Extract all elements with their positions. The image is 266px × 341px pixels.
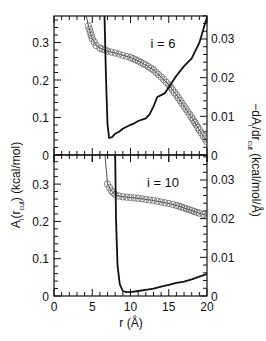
y-tick-label-left: 0: [42, 290, 49, 304]
plot-panels: 00.10.20.300.010.020.03i = 600.10.20.300…: [32, 11, 234, 314]
ylabel-right-mid: /dr: [249, 127, 263, 141]
left-y-axis-label: Ai(rcut) (kcal/mol): [9, 142, 25, 228]
x-tick-label: 15: [162, 300, 176, 314]
y-tick-label-right: 0: [211, 149, 218, 163]
x-tick-label: 0: [51, 300, 58, 314]
ylabel-left-sub2: cut: [18, 201, 25, 210]
panel-annotation: i = 10: [147, 175, 179, 190]
svg-text:Ai(rcut) (kcal/mol): Ai(rcut) (kcal/mol): [9, 142, 25, 228]
ylabel-right-main: −dA: [249, 103, 263, 125]
right-y-axis-label: −dAi/drcut (kcal/mol/Å): [247, 103, 264, 216]
figure: 00.10.20.300.010.020.03i = 600.10.20.300…: [0, 0, 266, 341]
ylabel-left-rest: ) (kcal/mol): [9, 142, 23, 201]
derivative-curve: [104, 11, 207, 138]
x-tick-label: 10: [124, 300, 138, 314]
ylabel-right-sub2: cut: [247, 141, 254, 150]
derivative-curve: [115, 150, 207, 292]
y-tick-label-left: 0.2: [32, 215, 49, 229]
y-tick-label-right: 0.02: [211, 212, 235, 226]
y-tick-label-left: 0.3: [32, 178, 49, 192]
x-tick-label: 5: [89, 300, 96, 314]
x-axis-label: r (Å): [119, 315, 142, 330]
y-tick-label-left: 0.1: [32, 252, 49, 266]
y-tick-label-left: 0.2: [32, 74, 49, 88]
ylabel-right-rest: (kcal/mol/Å): [249, 150, 264, 217]
y-tick-label-right: 0.01: [211, 251, 235, 265]
y-tick-label-left: 0.3: [32, 36, 49, 50]
y-tick-label-right: 0.03: [211, 173, 235, 187]
y-tick-label-right: 0.01: [211, 110, 235, 124]
y-tick-label-right: 0.02: [211, 71, 235, 85]
plot-frame: [54, 16, 207, 155]
svg-text:−dAi/drcut (kcal/mol/Å): −dAi/drcut (kcal/mol/Å): [247, 103, 264, 216]
ylabel-left-main: A: [9, 220, 23, 228]
panel-bottom: 00.10.20.300.010.020.0305101520i = 10: [32, 150, 234, 314]
y-tick-label-right: 0.03: [211, 32, 235, 46]
y-tick-label-left: 0: [42, 149, 49, 163]
ylabel-left-paren: (r: [9, 211, 23, 219]
free-energy-line: [85, 11, 207, 142]
plot-frame: [54, 155, 207, 296]
panel-top: 00.10.20.300.010.020.03i = 6: [32, 11, 234, 163]
y-tick-label-left: 0.1: [32, 111, 49, 125]
x-tick-label: 20: [200, 300, 214, 314]
panel-annotation: i = 6: [151, 36, 176, 51]
